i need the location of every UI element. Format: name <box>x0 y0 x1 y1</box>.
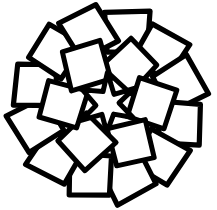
drawing-canvas <box>0 0 217 210</box>
rosette-figure <box>0 0 217 210</box>
